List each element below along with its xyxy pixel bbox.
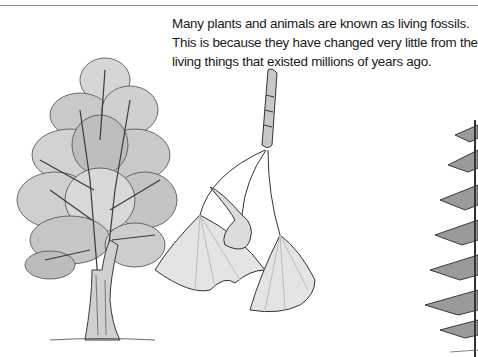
ginkgo-leaf-illustration [150, 65, 320, 335]
top-divider [0, 5, 478, 6]
conifer-tree-illustration [420, 120, 478, 357]
caption-text: Many plants and animals are known as liv… [172, 14, 478, 71]
